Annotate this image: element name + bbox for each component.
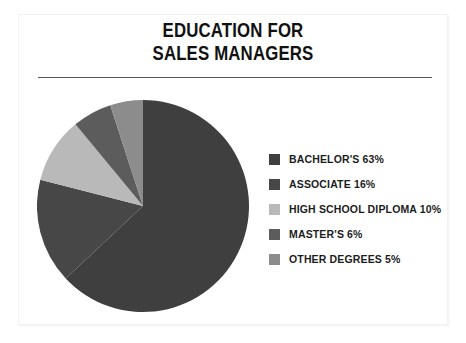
legend-swatch-icon [269,229,280,240]
legend-swatch-icon [269,254,280,265]
legend-item: MASTER'S 6% [269,222,449,246]
pie-chart [37,100,249,312]
legend-item: OTHER DEGREES 5% [269,247,449,271]
legend-item-label: MASTER'S 6% [289,228,363,240]
legend-item: ASSOCIATE 16% [269,172,449,196]
chart-title: EDUCATION FOR SALES MANAGERS [18,18,448,64]
chart-title-line-1: EDUCATION FOR [61,18,405,41]
chart-title-line-2: SALES MANAGERS [61,41,405,64]
legend-item-label: ASSOCIATE 16% [289,178,375,190]
legend-swatch-icon [269,154,280,165]
legend-swatch-icon [269,179,280,190]
chart-screenshot: EDUCATION FOR SALES MANAGERS BACHELOR'S … [0,0,466,343]
legend-swatch-icon [269,204,280,215]
legend-item-label: OTHER DEGREES 5% [289,253,401,265]
legend-item-label: HIGH SCHOOL DIPLOMA 10% [289,203,441,215]
pie-chart-svg [37,100,249,312]
pie-slice-group [37,100,249,312]
legend-item: HIGH SCHOOL DIPLOMA 10% [269,197,449,221]
title-divider [38,77,432,78]
legend-item: BACHELOR'S 63% [269,147,449,171]
chart-legend: BACHELOR'S 63%ASSOCIATE 16%HIGH SCHOOL D… [269,147,449,272]
legend-item-label: BACHELOR'S 63% [289,153,384,165]
